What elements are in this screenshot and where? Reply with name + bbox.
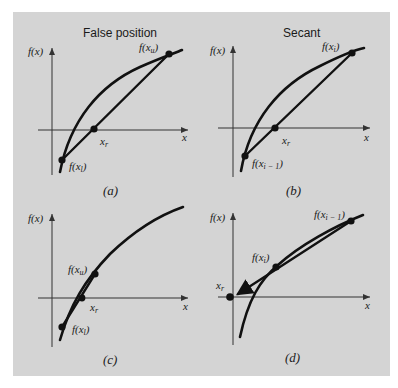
label-f-xi-1: f(xi − 1)	[314, 208, 345, 222]
xi-minus-1-point	[241, 152, 248, 159]
panel-b: Secant f(x) x f(xi) xr f(xi − 1) (b)	[210, 26, 370, 198]
label-f-xi-1: f(xi − 1)	[252, 157, 283, 171]
y-axis-label: f(x)	[210, 44, 226, 57]
panel-a: False position f(x) x f(xu) xr f(xl) (a)	[28, 26, 188, 198]
label-xr: xr	[215, 279, 225, 293]
panel-c: f(x) x f(xu) xr f(xl) (c)	[28, 207, 188, 367]
label-f-xu: f(xu)	[139, 41, 159, 55]
panel-d-caption: (d)	[285, 350, 300, 365]
secant-line	[245, 53, 352, 156]
root-estimate-point	[271, 124, 278, 131]
root-estimate-point	[226, 293, 234, 301]
panel-b-caption: (b)	[286, 183, 301, 198]
function-curve	[60, 50, 182, 172]
y-axis-label: f(x)	[210, 211, 226, 224]
label-f-xl: f(xl)	[69, 160, 87, 174]
panel-a-caption: (a)	[103, 183, 118, 198]
x-axis-label: x	[181, 131, 187, 143]
lower-point	[58, 156, 65, 163]
x-axis-label: x	[364, 299, 370, 311]
false-position-chord	[62, 54, 169, 160]
label-xr: xr	[99, 135, 109, 149]
function-curve	[240, 215, 363, 337]
xi-point	[348, 49, 355, 56]
label-xr: xr	[89, 301, 99, 315]
label-f-xi: f(xi)	[322, 40, 340, 54]
xi-minus-1-point	[347, 217, 354, 224]
lower-point	[58, 323, 65, 330]
xi-point	[272, 263, 279, 270]
panel-d: f(x) x f(xi − 1) f(xi) xr (d)	[210, 208, 370, 365]
label-f-xi: f(xi)	[252, 251, 270, 265]
root-estimate-point	[90, 125, 97, 132]
root-estimate-point	[79, 295, 86, 302]
label-f-xl: f(xl)	[72, 323, 90, 337]
label-xr: xr	[281, 134, 291, 148]
x-axis-label: x	[363, 131, 369, 143]
function-curve	[241, 48, 364, 171]
root-finding-comparison-figure: False position f(x) x f(xu) xr f(xl) (a)…	[0, 0, 398, 388]
y-axis-label: f(x)	[28, 212, 44, 225]
x-axis-label: x	[182, 300, 188, 312]
panel-a-title: False position	[83, 26, 157, 40]
y-axis-label: f(x)	[28, 45, 44, 58]
upper-point	[165, 50, 172, 57]
panel-b-title: Secant	[283, 26, 321, 40]
upper-point	[91, 270, 98, 277]
label-f-xu: f(xu)	[68, 263, 88, 277]
panel-c-caption: (c)	[103, 352, 117, 367]
